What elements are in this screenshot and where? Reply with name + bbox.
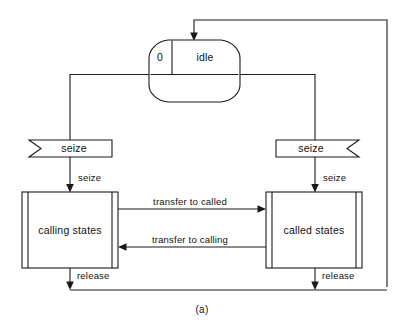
transfer-to-calling-arrowhead bbox=[118, 243, 127, 251]
edge-label-transfer-to-calling: transfer to calling bbox=[152, 235, 228, 245]
edge-label-seize-to-calling: seize bbox=[78, 173, 101, 183]
idle-barrel-outline bbox=[149, 40, 240, 102]
transfer-to-called-arrowhead bbox=[258, 205, 267, 213]
seize-left-banner-label: seize bbox=[61, 143, 87, 154]
edge-label-release-left: release bbox=[77, 271, 110, 281]
idle-barrel-count-label: 0 bbox=[157, 52, 163, 63]
right-seize-arrowhead bbox=[311, 184, 319, 193]
seize-right-banner-label: seize bbox=[298, 143, 324, 154]
left-seize-arrowhead bbox=[66, 184, 74, 193]
left-branch-path bbox=[70, 75, 149, 187]
edge-label-seize-to-called: seize bbox=[323, 173, 346, 183]
calling-states-label: calling states bbox=[38, 225, 102, 236]
release-left-arrowhead bbox=[66, 282, 74, 291]
called-states-label: called states bbox=[284, 225, 345, 236]
idle-barrel-state-label: idle bbox=[196, 52, 213, 63]
figure-a-state-diagram: 0 idle seize seize seize seize calling s… bbox=[0, 0, 405, 328]
right-branch-path bbox=[240, 75, 315, 187]
release-right-arrowhead bbox=[311, 282, 319, 291]
edge-label-transfer-to-called: transfer to called bbox=[153, 197, 227, 207]
edge-label-release-right: release bbox=[322, 271, 355, 281]
figure-caption: (a) bbox=[196, 305, 209, 315]
